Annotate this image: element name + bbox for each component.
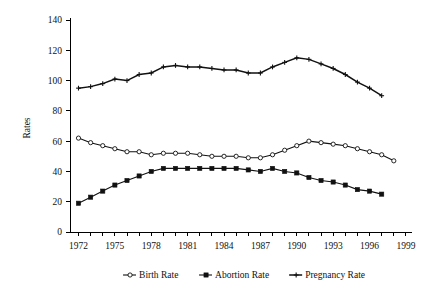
legend-label-3[interactable]: Pregnancy Rate	[305, 270, 365, 280]
data-point-marker	[101, 189, 105, 193]
data-point-marker	[137, 174, 141, 178]
data-point-marker	[392, 159, 396, 163]
legend-label-1[interactable]: Birth Rate	[139, 270, 178, 280]
data-point-marker	[222, 166, 226, 170]
data-point-marker	[270, 153, 274, 157]
data-point-marker	[222, 154, 226, 158]
data-point-marker	[380, 153, 384, 157]
data-point-marker	[258, 169, 262, 173]
x-axis-tick-label: 1978	[142, 241, 161, 251]
data-point-marker	[173, 166, 177, 170]
y-axis-tick-label: 40	[53, 167, 63, 177]
data-point-marker	[161, 151, 165, 155]
series-birth-rate	[76, 136, 396, 163]
data-point-marker	[101, 144, 105, 148]
data-point-marker	[283, 148, 287, 152]
data-point-marker	[355, 147, 359, 151]
y-axis-tick-label: 100	[48, 76, 63, 86]
y-axis-tick-label: 140	[48, 15, 63, 25]
data-point-marker	[258, 156, 262, 160]
data-point-marker	[128, 273, 132, 277]
y-axis-tick-label: 0	[57, 227, 62, 237]
y-axis-tick-label: 120	[48, 46, 63, 56]
y-axis-tick-label: 60	[53, 137, 63, 147]
line-chart: 0204060801001201401972197519781981198419…	[0, 0, 427, 295]
data-point-marker	[198, 166, 202, 170]
data-point-marker	[234, 166, 238, 170]
series-line	[78, 168, 381, 203]
data-point-marker	[367, 189, 371, 193]
data-point-marker	[149, 153, 153, 157]
x-axis-tick-label: 1996	[360, 241, 379, 251]
data-point-marker	[246, 156, 250, 160]
data-point-marker	[380, 192, 384, 196]
data-point-marker	[125, 150, 129, 154]
series-line	[78, 58, 381, 96]
data-point-marker	[331, 142, 335, 146]
x-axis-tick-label: 1993	[324, 241, 343, 251]
data-point-marker	[76, 201, 80, 205]
data-point-marker	[137, 150, 141, 154]
data-point-marker	[210, 166, 214, 170]
data-point-marker	[113, 147, 117, 151]
data-point-marker	[234, 154, 238, 158]
data-point-marker	[246, 168, 250, 172]
data-point-marker	[198, 153, 202, 157]
data-point-marker	[89, 195, 93, 199]
data-point-marker	[161, 166, 165, 170]
data-point-marker	[367, 150, 371, 154]
series-pregnancy-rate	[76, 55, 384, 98]
data-point-marker	[319, 178, 323, 182]
data-point-marker	[186, 166, 190, 170]
data-point-marker	[113, 183, 117, 187]
data-point-marker	[283, 169, 287, 173]
data-point-marker	[295, 171, 299, 175]
x-axis-tick-label: 1999	[396, 241, 415, 251]
y-axis-tick-label: 80	[53, 106, 63, 116]
x-axis-tick-label: 1990	[287, 241, 306, 251]
data-point-marker	[125, 178, 129, 182]
data-point-marker	[343, 183, 347, 187]
y-axis-tick-label: 20	[53, 197, 63, 207]
data-point-marker	[355, 188, 359, 192]
data-point-marker	[210, 154, 214, 158]
data-point-marker	[173, 151, 177, 155]
x-axis-tick-label: 1984	[215, 241, 234, 251]
x-axis-tick-label: 1981	[178, 241, 197, 251]
data-point-marker	[89, 141, 93, 145]
data-point-marker	[270, 166, 274, 170]
series-abortion-rate	[76, 166, 383, 205]
y-axis-title: Rates	[22, 117, 32, 138]
data-point-marker	[295, 144, 299, 148]
x-axis-tick-label: 1987	[251, 241, 270, 251]
data-point-marker	[307, 139, 311, 143]
data-point-marker	[307, 175, 311, 179]
data-point-marker	[319, 141, 323, 145]
data-point-marker	[204, 273, 208, 277]
legend-label-2[interactable]: Abortion Rate	[215, 270, 269, 280]
chart-legend: Birth RateAbortion RatePregnancy Rate	[123, 270, 365, 280]
data-point-marker	[186, 151, 190, 155]
x-axis-tick-label: 1975	[105, 241, 124, 251]
data-point-marker	[343, 144, 347, 148]
data-point-marker	[331, 180, 335, 184]
data-point-marker	[76, 136, 80, 140]
x-axis-tick-label: 1972	[69, 241, 88, 251]
chart-container: 0204060801001201401972197519781981198419…	[0, 0, 427, 295]
data-point-marker	[149, 169, 153, 173]
